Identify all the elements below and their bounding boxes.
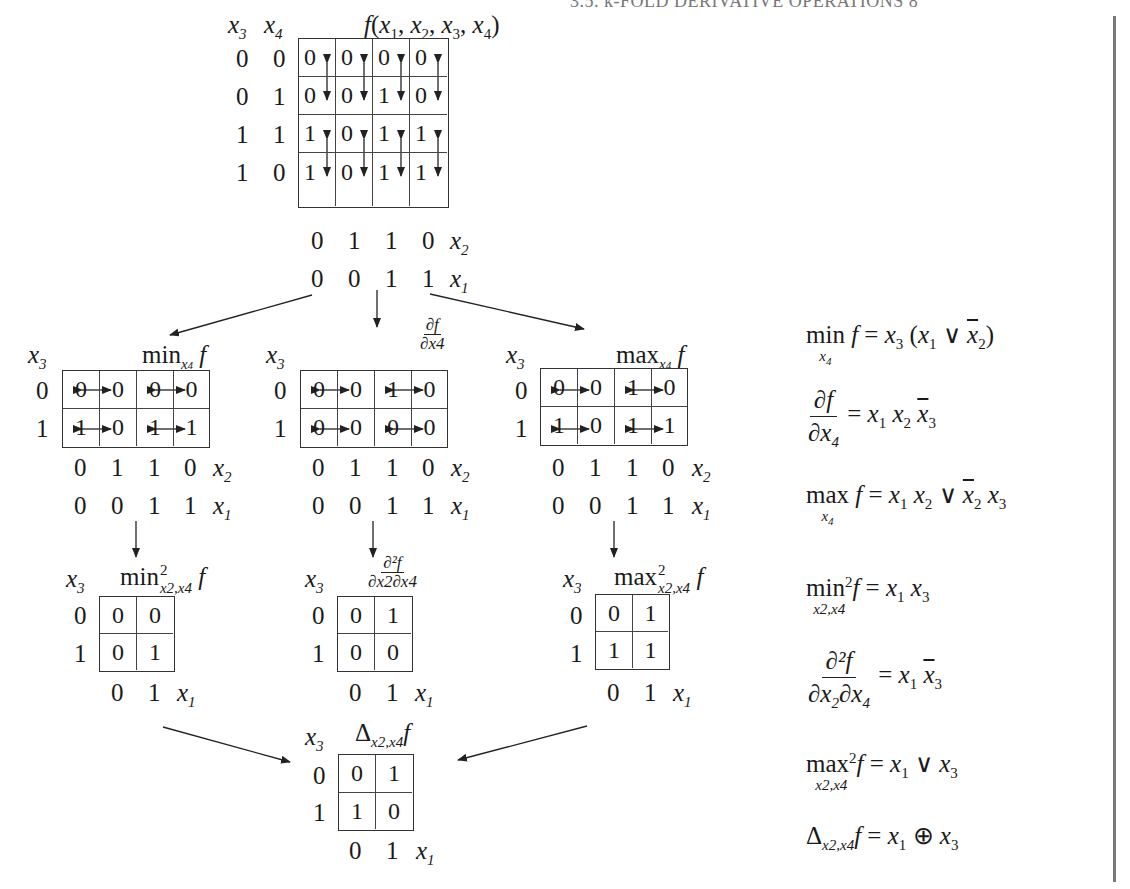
map-title: minx4 f (142, 342, 206, 367)
cell: 1 (633, 595, 668, 632)
cell: 0 (338, 409, 375, 446)
col-label: 1 (589, 455, 602, 480)
row-label: 1 (274, 416, 287, 441)
derivative2-map-grid: 0 1 0 0 (337, 596, 413, 672)
col-label: 0 (111, 493, 124, 518)
row-label: 0 (236, 84, 249, 109)
col-label: 0 (111, 680, 124, 705)
row-label: 1 (74, 641, 87, 666)
cell: 0 (336, 153, 373, 206)
min-map-grid: 0 0 0 0 1 0 1 1 (62, 370, 210, 448)
cell: 0 (174, 371, 209, 409)
cell: 0 (410, 77, 447, 115)
cell: 1 (596, 632, 633, 668)
cell: 1 (376, 755, 412, 793)
flow-arrows (136, 290, 614, 762)
formula-max2-f: max2x2,x4f = x1 ∨ x3 (806, 751, 958, 793)
cell: 1 (339, 793, 376, 829)
col-var-x1: x1 (177, 680, 196, 705)
cell: 0 (336, 115, 373, 153)
col-label: 0 (74, 493, 87, 518)
col-label: 1 (422, 493, 435, 518)
row-var-x3: x3 (66, 566, 85, 591)
cell: 0 (338, 634, 375, 670)
row-label: 0 (313, 763, 326, 788)
cell: 0 (578, 407, 615, 444)
cell: 0 (100, 371, 137, 409)
cell: 1 (373, 153, 410, 206)
col-label: 0 (422, 455, 435, 480)
col-var-x2: x2 (451, 455, 470, 480)
cell: 0 (299, 39, 336, 77)
row-label: 0 (74, 603, 87, 628)
col-label: 1 (148, 680, 161, 705)
main-map-grid: 0 0 0 0 0 0 1 0 1 0 1 1 1 0 1 1 (298, 38, 449, 208)
map-title: ∂²f∂x2∂x4 (366, 554, 419, 591)
cell: 0 (100, 634, 137, 670)
cell: 0 (338, 371, 375, 409)
cell: 1 (174, 409, 209, 446)
cell: 0 (63, 371, 100, 409)
formula-df-dx4: ∂f∂x4 = x1 x2 x3 (806, 387, 936, 447)
cell: 0 (375, 634, 411, 670)
col-label: 1 (184, 493, 197, 518)
row-label: 0 (36, 378, 49, 403)
map-title: maxx4 f (616, 342, 684, 367)
formula-max-f: maxx4 f = x1 x2 ∨ x2 x3 (806, 482, 1006, 524)
col-var-x1: x1 (416, 838, 435, 863)
col-label: 1 (148, 493, 161, 518)
col-label: 1 (626, 493, 639, 518)
col-label: 0 (607, 680, 620, 705)
col-label: 0 (312, 455, 325, 480)
cell: 0 (100, 597, 137, 634)
cell: 1 (137, 409, 174, 446)
col-var-x2: x2 (450, 228, 469, 253)
formula-min-f: minx4 f = x3 (x1 ∨ x2) (806, 322, 994, 364)
cell: 0 (137, 597, 173, 634)
row-label: 0 (236, 46, 249, 71)
row-var-x3: x3 (266, 342, 285, 367)
col-label: 0 (311, 266, 324, 291)
cell: 1 (615, 369, 652, 407)
cell: 0 (100, 409, 137, 446)
row-var-x3: x3 (506, 342, 525, 367)
row-var-x3: x3 (305, 724, 324, 749)
col-label: 0 (552, 455, 565, 480)
cell: 0 (338, 597, 375, 634)
max2-map-grid: 0 1 1 1 (595, 594, 670, 670)
col-label: 1 (386, 838, 399, 863)
cell: 0 (301, 409, 338, 446)
col-label: 0 (552, 493, 565, 518)
row-label: 1 (273, 122, 286, 147)
col-var-x1: x1 (451, 493, 470, 518)
max-map-grid: 0 0 1 0 1 0 1 1 (540, 368, 688, 446)
col-var-x1: x1 (692, 493, 711, 518)
cell: 1 (63, 409, 100, 446)
cell: 0 (373, 39, 410, 77)
derivative-map-grid: 0 0 1 0 0 0 0 0 (300, 370, 448, 448)
row-label: 1 (273, 84, 286, 109)
col-var-x2: x2 (213, 455, 232, 480)
col-var-x1: x1 (450, 266, 469, 291)
col-var-x2: x2 (692, 455, 711, 480)
col-var-x1: x1 (213, 493, 232, 518)
cell: 0 (578, 369, 615, 407)
col-label: 0 (184, 455, 197, 480)
cell: 1 (541, 407, 578, 444)
row-label: 0 (273, 46, 286, 71)
col-label: 1 (386, 493, 399, 518)
col-var-x1: x1 (673, 680, 692, 705)
row-label: 1 (313, 800, 326, 825)
delta-map-grid: 0 1 1 0 (338, 754, 414, 831)
cell: 0 (376, 793, 412, 829)
map-title: max2x2,x4 f (614, 563, 703, 596)
col-label: 1 (386, 680, 399, 705)
cell: 0 (410, 39, 447, 77)
cell: 1 (375, 597, 411, 634)
row-var-x3: x3 (228, 12, 247, 37)
row-label: 1 (312, 641, 325, 666)
row-label: 0 (274, 378, 287, 403)
formula-min2-f: min2x2,x4f = x1 x3 (806, 575, 929, 617)
cell: 1 (375, 371, 412, 409)
cell: 0 (301, 371, 338, 409)
